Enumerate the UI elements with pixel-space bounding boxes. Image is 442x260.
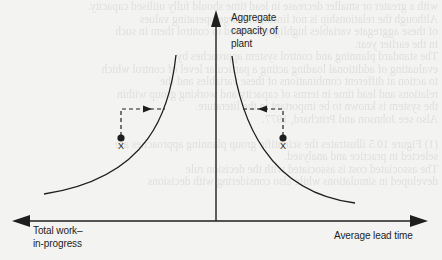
leadtime-capacity-curve xyxy=(232,56,355,203)
point-right-label: X xyxy=(280,140,286,153)
left-axis-arrowhead-icon xyxy=(12,215,30,227)
vertical-axis-arrowhead-icon xyxy=(211,10,221,27)
vertical-axis xyxy=(211,10,221,221)
y-axis-label-line: plant xyxy=(231,37,278,50)
dashed-arrowhead-left-icon xyxy=(258,106,267,113)
x-axis-left-label: Total work– in-progress xyxy=(33,224,82,250)
x-axis-left-label-line: in-progress xyxy=(33,237,82,250)
y-axis-label-line: capacity of xyxy=(231,24,278,37)
wip-capacity-curve xyxy=(44,55,176,194)
x-axis-right-label: Average lead time xyxy=(334,229,413,242)
right-axis-arrowhead-icon xyxy=(410,215,428,227)
x-axis-left-label-line: Total work– xyxy=(33,224,82,237)
diagram-page: with a greater or smaller decrease in le… xyxy=(0,0,442,260)
point-x-right xyxy=(242,106,287,142)
y-axis-label-line: Aggregate xyxy=(231,11,278,24)
dashed-arrowhead-right-icon xyxy=(143,106,152,113)
capacity-diagram xyxy=(0,0,442,260)
point-left-label: X xyxy=(118,140,124,153)
y-axis-label: Aggregate capacity of plant xyxy=(231,11,278,50)
